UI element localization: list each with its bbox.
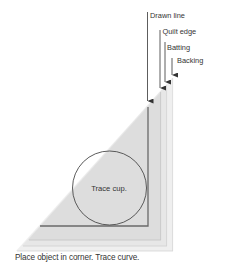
- quilt-corner-diagram: Trace cup. Drawn line Quilt edge Batting…: [0, 0, 227, 271]
- quilt-edge-label: Quilt edge: [163, 27, 197, 36]
- batting-label: Batting: [167, 43, 190, 52]
- drawn-line-label: Drawn line: [150, 11, 185, 20]
- circle-label: Trace cup.: [91, 184, 127, 193]
- diagram-caption: Place object in corner. Trace curve.: [15, 253, 139, 262]
- quilt-edge-layer: [28, 92, 161, 240]
- backing-label: Backing: [177, 56, 203, 65]
